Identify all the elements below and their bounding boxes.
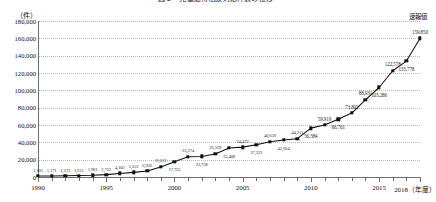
data-point-label: 103,286 xyxy=(371,93,387,98)
x-axis-tick-mark xyxy=(106,178,107,182)
data-point-label: 133,778 xyxy=(398,67,414,72)
gridline xyxy=(38,108,420,109)
data-point-label: 17,725 xyxy=(168,167,180,172)
data-point-marker xyxy=(200,155,203,158)
data-point-marker xyxy=(173,160,176,163)
data-point-marker xyxy=(64,174,67,177)
x-axis-tick-mark xyxy=(311,178,312,182)
data-point-label: 1,611 xyxy=(74,168,84,173)
data-point-marker xyxy=(77,174,80,177)
x-axis-tick-mark xyxy=(297,178,298,181)
data-point-marker xyxy=(132,171,135,174)
x-axis-tick-mark xyxy=(284,178,285,181)
data-point-marker xyxy=(350,111,353,114)
x-axis-tick-mark xyxy=(52,178,53,181)
x-axis-tick-mark xyxy=(134,178,135,181)
gridline xyxy=(38,73,420,74)
x-axis-tick-mark xyxy=(243,178,244,182)
x-axis-tick-mark xyxy=(420,178,421,182)
x-axis-tick-mark xyxy=(393,178,394,181)
data-point-marker xyxy=(377,86,380,89)
data-point-label: 1,101 xyxy=(33,168,43,173)
data-point-marker xyxy=(309,126,312,129)
data-point-marker xyxy=(296,137,299,140)
y-axis-tick-label: 0 xyxy=(0,174,36,181)
data-point-label: 1,372 xyxy=(60,168,70,173)
data-point-label: 5,352 xyxy=(129,164,139,169)
data-point-label: 33,408 xyxy=(223,154,235,159)
x-axis-tick-mark xyxy=(365,178,366,181)
y-axis-tick-label: 60,000 xyxy=(0,122,36,129)
data-point-label: 26,569 xyxy=(209,145,221,150)
x-axis-tick-mark xyxy=(325,178,326,181)
data-point-marker xyxy=(405,59,408,62)
gridline xyxy=(38,125,420,126)
y-axis-tick-label: 40,000 xyxy=(0,139,36,146)
x-axis-tick-label: 2005 xyxy=(236,184,250,191)
x-axis-tick-mark xyxy=(270,178,271,181)
data-point-marker xyxy=(418,37,421,40)
data-point-marker xyxy=(50,174,53,177)
preliminary-value-annotation: 速報値 xyxy=(409,12,428,21)
gridline xyxy=(38,38,420,39)
x-axis-tick-mark xyxy=(161,178,162,181)
x-axis-tick-label: 2000 xyxy=(168,184,182,191)
y-axis-tick-label: 100,000 xyxy=(0,87,36,94)
gridline xyxy=(38,56,420,57)
data-point-marker xyxy=(36,174,39,177)
data-point-label: 6,932 xyxy=(142,163,152,168)
data-point-marker xyxy=(241,145,244,148)
x-axis-tick-mark xyxy=(79,178,80,181)
x-axis-tick-mark xyxy=(379,178,380,182)
x-axis-tick-mark xyxy=(406,178,407,181)
x-axis-tick-label: 2010 xyxy=(304,184,318,191)
data-point-label: 73,802 xyxy=(345,105,358,110)
data-point-label: 11,631 xyxy=(155,158,167,163)
x-axis-tick-label: 1995 xyxy=(99,184,113,191)
data-point-marker xyxy=(145,169,148,172)
data-point-label: 66,701 xyxy=(331,125,344,130)
data-point-marker xyxy=(268,140,271,143)
x-axis-tick-mark xyxy=(338,178,339,181)
data-point-marker xyxy=(159,165,162,168)
x-axis-tick-label: 2015 xyxy=(372,184,386,191)
x-axis-tick-mark xyxy=(256,178,257,181)
data-point-marker xyxy=(323,123,326,126)
x-axis-tick-mark xyxy=(215,178,216,181)
data-point-label: 59,919 xyxy=(318,117,331,122)
x-axis-tick-mark xyxy=(147,178,148,181)
y-axis-line xyxy=(38,21,39,178)
x-axis-tick-mark xyxy=(229,178,230,181)
x-axis-tick-mark xyxy=(352,178,353,181)
gridline xyxy=(38,160,420,161)
data-point-marker xyxy=(391,69,394,72)
data-point-label: 40,639 xyxy=(264,133,276,138)
y-axis-tick-label: 20,000 xyxy=(0,156,36,163)
data-point-label: 37,323 xyxy=(250,150,262,155)
data-point-label: 4,102 xyxy=(115,165,125,170)
chart-title: 図１ 児童虐待相談対応件数の推移 xyxy=(0,0,431,4)
y-axis-tick-label: 80,000 xyxy=(0,104,36,111)
x-axis-tick-mark xyxy=(174,178,175,182)
data-point-marker xyxy=(118,172,121,175)
x-axis-tick-mark xyxy=(65,178,66,181)
data-point-label: 1,171 xyxy=(47,168,57,173)
x-axis-tick-mark xyxy=(120,178,121,181)
data-point-marker xyxy=(364,98,367,101)
data-point-label: 56,384 xyxy=(304,134,317,139)
data-point-marker xyxy=(105,173,108,176)
data-point-marker xyxy=(214,152,217,155)
x-axis-tick-label: 2018（年度） xyxy=(394,184,436,194)
data-point-label: 2,722 xyxy=(101,167,111,172)
data-point-label: 23,274 xyxy=(182,148,194,153)
y-axis-tick-label: 160,000 xyxy=(0,35,36,42)
gridline xyxy=(38,142,420,143)
data-point-marker xyxy=(255,143,258,146)
data-point-marker xyxy=(282,138,285,141)
data-point-marker xyxy=(336,117,339,120)
y-axis-tick-label: 180,000 xyxy=(0,18,36,25)
data-point-marker xyxy=(227,146,230,149)
x-axis-tick-mark xyxy=(202,178,203,181)
data-point-marker xyxy=(186,155,189,158)
